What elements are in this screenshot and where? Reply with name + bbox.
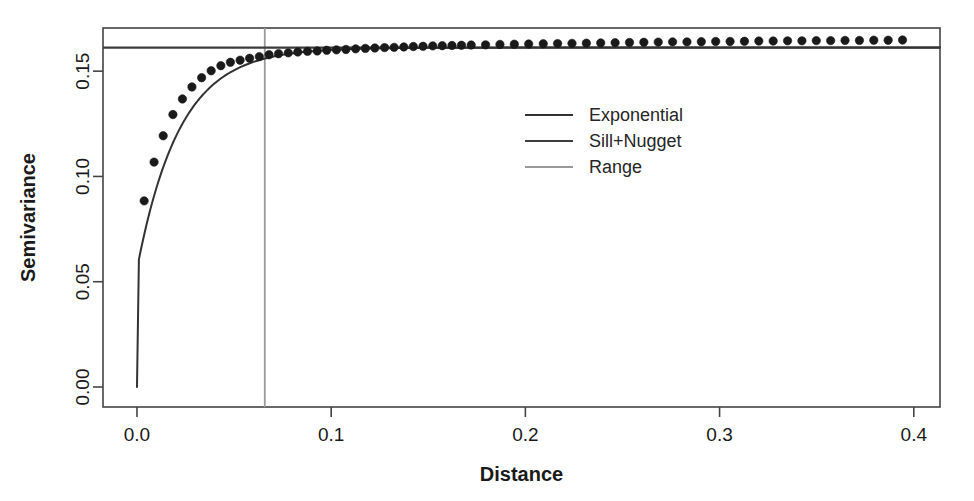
data-point — [640, 38, 648, 46]
data-point — [178, 95, 186, 103]
data-point — [683, 38, 691, 46]
data-point — [188, 83, 196, 91]
x-tick-label: 0.2 — [512, 424, 538, 445]
data-point — [481, 41, 489, 49]
data-point — [448, 41, 456, 49]
data-point — [255, 52, 263, 60]
data-point — [294, 48, 302, 56]
data-point — [371, 44, 379, 52]
data-point — [740, 37, 748, 45]
data-point — [342, 45, 350, 53]
data-point — [226, 58, 234, 66]
data-point — [625, 38, 633, 46]
data-point — [524, 40, 532, 48]
data-point — [597, 39, 605, 47]
data-point — [870, 36, 878, 44]
data-point — [400, 43, 408, 51]
data-point — [313, 47, 321, 55]
data-point — [274, 49, 282, 57]
data-point — [303, 47, 311, 55]
data-point — [323, 46, 331, 54]
data-point — [553, 39, 561, 47]
data-point — [539, 40, 547, 48]
data-point — [654, 38, 662, 46]
data-point — [265, 51, 273, 59]
data-point — [150, 158, 158, 166]
data-point — [351, 45, 359, 53]
data-point — [438, 41, 446, 49]
data-point — [769, 37, 777, 45]
legend-label-exponential: Exponential — [589, 105, 683, 125]
data-point — [582, 39, 590, 47]
data-point — [697, 37, 705, 45]
data-point — [409, 42, 417, 50]
data-point — [496, 40, 504, 48]
data-point — [712, 37, 720, 45]
data-point — [169, 110, 177, 118]
data-point — [207, 67, 215, 75]
legend: ExponentialSill+NuggetRange — [525, 105, 683, 177]
x-tick-label: 0.0 — [124, 424, 150, 445]
x-axis-title: Distance — [480, 463, 563, 485]
data-point — [898, 36, 906, 44]
x-tick-label: 0.4 — [901, 424, 928, 445]
x-tick-label: 0.3 — [706, 424, 732, 445]
data-point — [826, 36, 834, 44]
y-axis-title: Semivariance — [17, 153, 39, 282]
data-point — [841, 36, 849, 44]
x-axis: 0.00.10.20.30.4 — [124, 407, 928, 445]
data-point — [236, 56, 244, 64]
data-point — [380, 43, 388, 51]
x-tick-label: 0.1 — [318, 424, 344, 445]
y-tick-label: 0.10 — [73, 158, 94, 195]
data-point — [668, 38, 676, 46]
data-point — [390, 43, 398, 51]
data-point — [884, 36, 892, 44]
data-point — [798, 37, 806, 45]
data-point — [812, 36, 820, 44]
legend-label-range: Range — [589, 157, 642, 177]
data-point — [783, 37, 791, 45]
data-point — [361, 44, 369, 52]
data-point — [568, 39, 576, 47]
data-point — [726, 37, 734, 45]
semivariogram-figure: 0.00.10.20.30.40.000.050.100.15DistanceS… — [0, 0, 974, 501]
data-point — [245, 54, 253, 62]
data-point — [429, 42, 437, 50]
data-point — [284, 49, 292, 57]
data-point — [855, 36, 863, 44]
data-point — [332, 46, 340, 54]
y-axis: 0.000.050.100.15 — [73, 53, 104, 406]
data-point — [755, 37, 763, 45]
y-tick-label: 0.15 — [73, 53, 94, 90]
plot-svg: 0.00.10.20.30.40.000.050.100.15DistanceS… — [0, 0, 974, 501]
exponential-curve — [137, 48, 940, 387]
data-point — [140, 197, 148, 205]
data-point — [510, 40, 518, 48]
plot-frame — [103, 28, 940, 407]
y-tick-label: 0.00 — [73, 369, 94, 406]
data-point — [197, 73, 205, 81]
data-point — [467, 41, 475, 49]
data-point — [457, 41, 465, 49]
data-point — [419, 42, 427, 50]
data-point — [611, 39, 619, 47]
y-tick-label: 0.05 — [73, 263, 94, 300]
data-point — [217, 61, 225, 69]
data-point — [159, 132, 167, 140]
legend-label-sill-nugget: Sill+Nugget — [589, 131, 682, 151]
